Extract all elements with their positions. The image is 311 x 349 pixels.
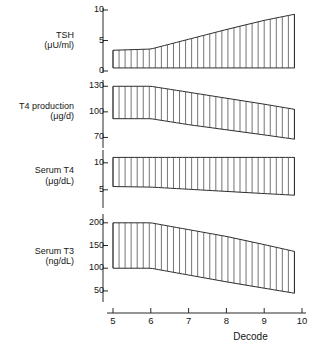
serum-t3-axis-title: Serum T3 <box>35 246 74 256</box>
t4-production-axis-unit: (μg/d) <box>19 111 74 122</box>
tsh-axis-title: TSH <box>56 30 74 40</box>
t4-production-panel-label: T4 production(μg/d) <box>19 101 74 122</box>
serum-t4-panel-label: Serum T4(μg/dL) <box>35 165 74 186</box>
t4-production-y-tick-label: 130 <box>89 81 104 90</box>
thyroid-function-figure: 0510TSH(μU/ml)70100130T4 production(μg/d… <box>0 0 311 349</box>
t4-production-axis-title: T4 production <box>19 101 74 111</box>
x-tick-label: 6 <box>136 316 166 326</box>
tsh-panel-label: TSH(μU/ml) <box>44 30 74 51</box>
tsh-axis-unit: (μU/ml) <box>44 40 74 51</box>
serum-t4-axis-title: Serum T4 <box>35 165 74 175</box>
serum-t3-panel-label: Serum T3(ng/dL) <box>35 246 74 267</box>
x-tick-label: 7 <box>174 316 204 326</box>
t4-production-y-tick-label: 70 <box>94 132 104 141</box>
x-tick-label: 10 <box>287 316 311 326</box>
serum-t4-axis-unit: (μg/dL) <box>35 176 74 187</box>
x-tick-label: 9 <box>249 316 279 326</box>
serum-t3-y-tick-label: 50 <box>94 286 104 295</box>
serum-t4-y-tick-label: 10 <box>94 158 104 167</box>
x-tick-label: 8 <box>211 316 241 326</box>
t4-production-y-tick-label: 100 <box>89 107 104 116</box>
x-axis-title: Decode <box>0 331 311 342</box>
tsh-y-tick-label: 5 <box>99 36 104 45</box>
serum-t4-y-tick-label: 5 <box>99 185 104 194</box>
serum-t3-y-tick-label: 150 <box>89 241 104 250</box>
tsh-y-tick-label: 10 <box>94 5 104 14</box>
x-tick-label: 5 <box>98 316 128 326</box>
serum-t3-axis-unit: (ng/dL) <box>35 256 74 267</box>
tsh-y-tick-label: 0 <box>99 66 104 75</box>
serum-t3-y-tick-label: 100 <box>89 263 104 272</box>
serum-t3-y-tick-label: 200 <box>89 218 104 227</box>
